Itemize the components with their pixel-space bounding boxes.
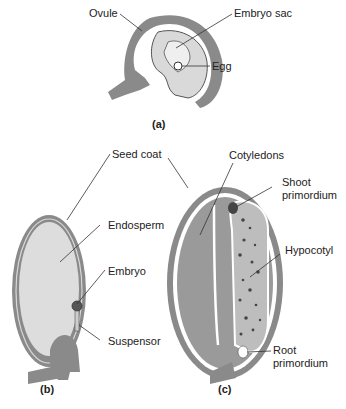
caption-b: (b) bbox=[40, 383, 54, 395]
panel-b-seed bbox=[12, 154, 110, 384]
label-root-2: primordium bbox=[273, 357, 328, 369]
label-ovule: Ovule bbox=[89, 7, 118, 19]
label-cotyledons: Cotyledons bbox=[229, 149, 285, 161]
label-egg: Egg bbox=[212, 60, 232, 72]
label-seed-coat: Seed coat bbox=[112, 148, 162, 160]
label-shoot-2: primordium bbox=[282, 189, 337, 201]
label-shoot-1: Shoot bbox=[282, 176, 311, 188]
label-endosperm: Endosperm bbox=[108, 219, 164, 231]
label-embryo: Embryo bbox=[108, 265, 146, 277]
caption-a: (a) bbox=[152, 118, 166, 130]
panel-c-seed bbox=[167, 158, 283, 384]
label-hypocotyl: Hypocotyl bbox=[285, 244, 333, 256]
caption-c: (c) bbox=[218, 383, 232, 395]
seed-development-diagram: Ovule Embryo sac Egg (a) Seed coat Endos… bbox=[0, 0, 346, 409]
label-suspensor: Suspensor bbox=[108, 335, 161, 347]
label-embryo-sac: Embryo sac bbox=[234, 7, 293, 19]
label-root-1: Root bbox=[273, 344, 296, 356]
